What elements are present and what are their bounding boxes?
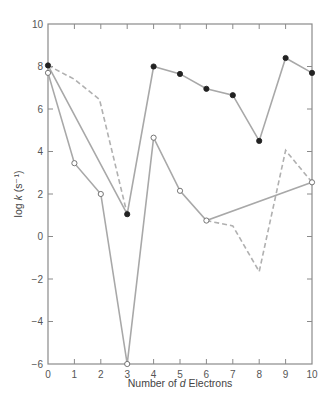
x-axis-title: Number of d Electrons: [128, 377, 232, 389]
open-point: [177, 188, 182, 193]
chart: 012345678910−6−4−20246810 Number of d El…: [0, 0, 336, 417]
x-tick-label: 2: [98, 369, 104, 380]
y-tick-label: 2: [37, 189, 43, 200]
y-tick-label: 6: [37, 104, 43, 115]
dashed-series-line: [206, 150, 312, 271]
filled-point: [283, 55, 288, 60]
open-point: [45, 70, 50, 75]
y-axis-title: log k (s⁻¹): [12, 171, 24, 218]
y-tick-label: −4: [32, 316, 44, 327]
x-tick-label: 9: [283, 369, 289, 380]
filled-point: [125, 212, 130, 217]
y-tick-label: 0: [37, 231, 43, 242]
filled-point: [177, 71, 182, 76]
open-point: [72, 161, 77, 166]
open-point: [98, 191, 103, 196]
filled-point: [45, 63, 50, 68]
data-series: [45, 55, 314, 366]
filled-point: [309, 70, 314, 75]
open-point: [204, 218, 209, 223]
y-tick-label: 10: [32, 19, 44, 30]
filled-point: [230, 93, 235, 98]
x-tick-label: 8: [256, 369, 262, 380]
open-point: [125, 361, 130, 366]
filled-point: [257, 138, 262, 143]
y-tick-label: −2: [32, 274, 44, 285]
y-tick-label: −6: [32, 359, 44, 370]
x-tick-label: 1: [72, 369, 78, 380]
x-tick-label: 10: [306, 369, 318, 380]
filled-point: [204, 86, 209, 91]
open-circles-line: [48, 73, 312, 364]
y-tick-label: 4: [37, 146, 43, 157]
filled-point: [151, 64, 156, 69]
open-point: [151, 135, 156, 140]
x-tick-label: 0: [45, 369, 51, 380]
open-point: [309, 180, 314, 185]
y-tick-label: 8: [37, 61, 43, 72]
